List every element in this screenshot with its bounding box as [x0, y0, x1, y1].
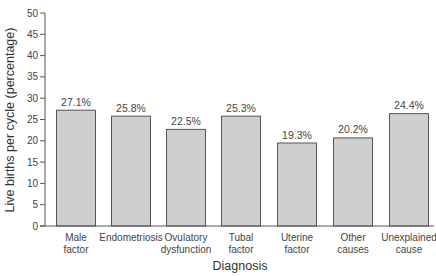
x-category-label: dysfunction — [161, 244, 212, 255]
y-tick-label: 40 — [27, 50, 39, 61]
y-tick-label: 50 — [27, 8, 39, 19]
y-tick-label: 15 — [27, 157, 39, 168]
bar — [334, 138, 373, 226]
bar-value-label: 25.3% — [226, 102, 256, 114]
bar-value-label: 27.1% — [61, 96, 91, 108]
bar-value-label: 24.4% — [394, 99, 424, 111]
bar — [167, 129, 206, 226]
y-tick-label: 35 — [27, 71, 39, 82]
x-axis: MalefactorEndometriosisOvulatorydysfunct… — [40, 226, 436, 255]
x-category-label: factor — [63, 244, 89, 255]
x-category-label: factor — [228, 244, 254, 255]
x-category-label: Endometriosis — [99, 232, 162, 243]
bar-value-label: 19.3% — [282, 129, 312, 141]
bar — [57, 110, 96, 226]
y-tick-label: 25 — [27, 114, 39, 125]
x-category-label: Male — [65, 232, 87, 243]
y-tick-label: 10 — [27, 178, 39, 189]
y-tick-label: 5 — [32, 199, 38, 210]
x-category-label: factor — [284, 244, 310, 255]
x-axis-title: Diagnosis — [213, 259, 268, 273]
bar-chart: 05101520253035404550 27.1%25.8%22.5%25.3… — [0, 0, 436, 276]
bar — [278, 143, 317, 226]
x-category-label: Ovulatory — [165, 232, 208, 243]
y-tick-label: 45 — [27, 29, 39, 40]
y-axis: 05101520253035404550 — [27, 8, 45, 232]
bar-value-label: 20.2% — [338, 123, 368, 135]
x-category-label: causes — [337, 244, 369, 255]
bar-value-label: 25.8% — [116, 102, 146, 114]
bars: 27.1%25.8%22.5%25.3%19.3%20.2%24.4% — [57, 96, 429, 226]
x-category-label: cause — [396, 244, 423, 255]
bar-value-label: 22.5% — [171, 115, 201, 127]
bar — [112, 116, 151, 226]
y-tick-label: 20 — [27, 135, 39, 146]
x-category-label: Uterine — [281, 232, 314, 243]
y-axis-title: Live births per cycle (percentage) — [3, 28, 17, 213]
y-tick-label: 30 — [27, 93, 39, 104]
y-tick-label: 0 — [32, 221, 38, 232]
bar — [222, 116, 261, 226]
x-category-label: Tubal — [229, 232, 254, 243]
bar — [390, 114, 429, 226]
x-category-label: Other — [340, 232, 366, 243]
x-category-label: Unexplained — [381, 232, 436, 243]
